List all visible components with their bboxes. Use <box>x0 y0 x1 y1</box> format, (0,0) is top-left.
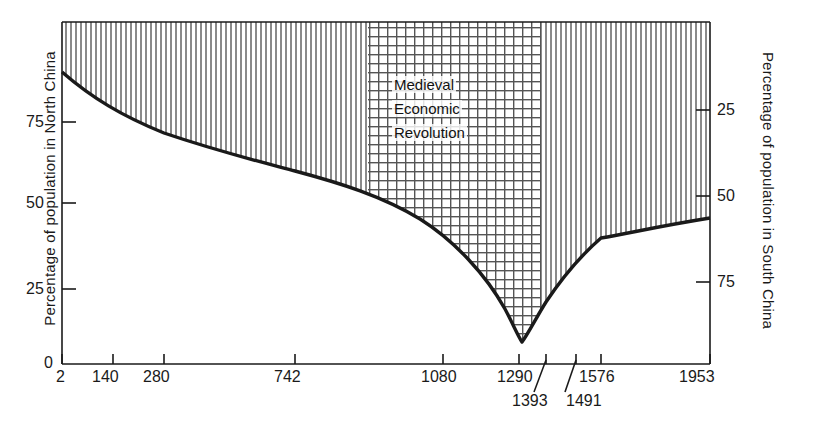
x-tick-label-1491: 1491 <box>566 392 602 410</box>
x-tick-label-140: 140 <box>92 368 119 386</box>
right-tick-label-50: 50 <box>717 187 735 205</box>
annotation-medieval-line-1: Medieval <box>392 76 456 93</box>
left-tick-label-50: 50 <box>26 194 44 212</box>
x-tick-label-1576: 1576 <box>579 368 615 386</box>
x-tick-label-1080: 1080 <box>421 368 457 386</box>
chart-figure: Percentage of population in North China … <box>0 0 813 437</box>
left-tick-label-0: 0 <box>44 354 53 372</box>
right-tick-label-25: 25 <box>717 101 735 119</box>
x-tick-label-1393: 1393 <box>512 392 548 410</box>
left-axis-ticks <box>62 122 76 289</box>
left-tick-label-25: 25 <box>26 280 44 298</box>
x-tick-label-2: 2 <box>56 368 65 386</box>
x-tick-label-280: 280 <box>143 368 170 386</box>
left-axis-title: Percentage of population in North China <box>41 19 58 359</box>
x-tick-label-1290: 1290 <box>497 368 533 386</box>
x-tick-label-742: 742 <box>274 368 301 386</box>
right-axis-title: Percentage of population in South China <box>760 21 777 361</box>
area-fill-group <box>62 22 710 342</box>
annotation-medieval-line-2: Economic <box>392 100 462 117</box>
left-tick-label-75: 75 <box>26 113 44 131</box>
annotation-medieval-line-3: Revolution <box>392 124 467 141</box>
x-tick-label-1953: 1953 <box>679 368 715 386</box>
x-axis-ticks <box>62 354 710 364</box>
right-tick-label-75: 75 <box>717 273 735 291</box>
